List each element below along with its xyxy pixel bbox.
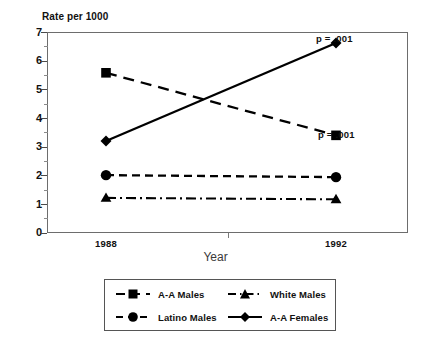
y-tick-label-3: 3 <box>24 140 42 152</box>
y-tick-label-4: 4 <box>24 112 42 124</box>
legend-item-a-a-females: A-A Females <box>227 307 328 327</box>
y-tick-mark-7 <box>41 32 47 33</box>
y-tick-minor-5-5 <box>44 75 48 76</box>
x-axis-title: Year <box>0 250 431 264</box>
y-tick-minor-4-5 <box>44 104 48 105</box>
legend-marker-square-dashed-icon <box>115 287 151 301</box>
series-white-males <box>101 192 342 203</box>
legend: A-A Males White Males Latino Males <box>104 279 336 331</box>
legend-marker-diamond-solid-icon <box>227 310 263 324</box>
legend-marker-circle-dashed-icon <box>115 310 151 324</box>
legend-marker-triangle-dashdot-icon <box>227 287 263 301</box>
series-a-a-males <box>101 68 341 140</box>
data-point-a-a-males-1988 <box>101 68 111 78</box>
y-tick-mark-3 <box>41 147 47 148</box>
y-tick-minor-3-5 <box>44 132 48 133</box>
y-tick-label-5: 5 <box>24 83 42 95</box>
y-tick-minor-1-5 <box>44 190 48 191</box>
y-tick-minor-6-5 <box>44 46 48 47</box>
y-tick-mark-1 <box>41 204 47 205</box>
y-axis-title: Rate per 1000 <box>42 11 108 22</box>
y-tick-mark-0 <box>41 233 47 234</box>
data-point-latino-males-1992 <box>331 172 341 182</box>
data-point-latino-males-1988 <box>101 170 111 180</box>
series-latino-males <box>101 170 341 182</box>
legend-label-a-a-males: A-A Males <box>158 289 204 300</box>
y-tick-label-2: 2 <box>24 169 42 181</box>
annotation-p-value-a-a-males: p = .001 <box>318 129 355 140</box>
y-tick-mark-6 <box>41 61 47 62</box>
legend-label-latino-males: Latino Males <box>158 312 217 323</box>
x-tick-label-1988: 1988 <box>86 238 126 249</box>
y-tick-label-1: 1 <box>24 198 42 210</box>
y-tick-minor-2-5 <box>44 161 48 162</box>
y-tick-mark-4 <box>41 118 47 119</box>
x-tick-mark-mid <box>228 233 229 238</box>
y-tick-minor-0-5 <box>44 218 48 219</box>
series-line-white-males <box>106 198 336 199</box>
chart-figure: Rate per 1000 <box>0 0 431 347</box>
y-tick-label-6: 6 <box>24 54 42 66</box>
y-tick-label-0: 0 <box>24 226 42 238</box>
y-tick-mark-5 <box>41 89 47 90</box>
data-point-a-a-females-1988 <box>101 136 112 147</box>
y-tick-label-7: 7 <box>24 26 42 38</box>
series-a-a-females <box>101 37 342 146</box>
legend-item-white-males: White Males <box>227 284 326 304</box>
legend-item-latino-males: Latino Males <box>115 307 217 327</box>
x-tick-label-1992: 1992 <box>316 238 356 249</box>
annotation-p-value-a-a-females: p = .001 <box>316 33 353 44</box>
legend-label-white-males: White Males <box>270 289 326 300</box>
y-tick-mark-2 <box>41 175 47 176</box>
legend-item-a-a-males: A-A Males <box>115 284 204 304</box>
series-line-latino-males <box>106 175 336 177</box>
legend-label-a-a-females: A-A Females <box>270 312 328 323</box>
